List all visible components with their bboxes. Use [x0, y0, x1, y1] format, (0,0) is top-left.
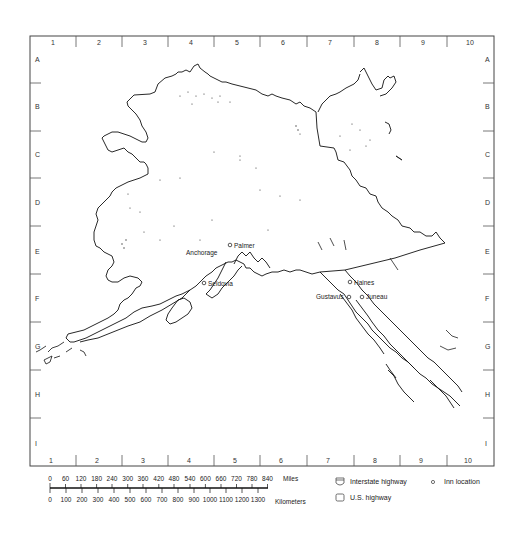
- svg-text:5: 5: [233, 457, 237, 464]
- svg-text:1: 1: [49, 457, 53, 464]
- svg-text:1200: 1200: [235, 496, 250, 503]
- scale-km-labels: 0 100 200 300 400 500 600 700 800 900 10…: [48, 496, 306, 505]
- scale-bar: 0 60 120 180 240 300 360 420 480 540 600…: [48, 475, 306, 505]
- svg-text:800: 800: [173, 496, 184, 503]
- svg-text:8: 8: [375, 39, 379, 46]
- svg-text:300: 300: [122, 475, 133, 482]
- legend: Interstate highway U.S. highway Inn loca…: [336, 478, 480, 502]
- row-labels-right: A B C D E F G H I: [485, 56, 490, 447]
- aleutian-islands: [36, 342, 86, 364]
- svg-text:300: 300: [93, 496, 104, 503]
- inn-seldovia[interactable]: [202, 281, 206, 285]
- svg-text:3: 3: [143, 39, 147, 46]
- svg-text:B: B: [485, 103, 490, 110]
- km-unit-label: Kilometers: [275, 498, 306, 505]
- svg-text:400: 400: [109, 496, 120, 503]
- inn-haines[interactable]: [348, 280, 352, 284]
- legend-us-highway-label: U.S. highway: [350, 494, 392, 502]
- svg-text:C: C: [35, 151, 40, 158]
- svg-text:5: 5: [235, 39, 239, 46]
- svg-text:2: 2: [95, 457, 99, 464]
- circle-icon: [431, 480, 434, 483]
- svg-text:480: 480: [169, 475, 180, 482]
- label-seldovia: Seldovia: [208, 280, 233, 287]
- svg-text:10: 10: [464, 457, 472, 464]
- svg-text:720: 720: [231, 475, 242, 482]
- svg-text:900: 900: [189, 496, 200, 503]
- arctic-islands: [318, 68, 402, 160]
- inn-juneau[interactable]: [360, 295, 364, 299]
- svg-text:1000: 1000: [203, 496, 218, 503]
- svg-text:8: 8: [373, 457, 377, 464]
- svg-text:2: 2: [97, 39, 101, 46]
- legend-interstate-label: Interstate highway: [350, 478, 407, 486]
- scale-miles-labels: 0 60 120 180 240 300 360 420 480 540 600…: [48, 475, 299, 482]
- svg-text:180: 180: [91, 475, 102, 482]
- interstate-shield-icon: [336, 478, 344, 485]
- svg-text:C: C: [485, 151, 490, 158]
- svg-text:6: 6: [281, 39, 285, 46]
- svg-text:120: 120: [76, 475, 87, 482]
- map-frame: [30, 36, 494, 466]
- svg-text:10: 10: [466, 39, 474, 46]
- svg-text:7: 7: [326, 457, 330, 464]
- svg-text:9: 9: [419, 457, 423, 464]
- svg-text:I: I: [35, 440, 37, 447]
- us-highway-shield-icon: [336, 494, 344, 501]
- svg-text:G: G: [485, 343, 490, 350]
- svg-text:1100: 1100: [219, 496, 233, 503]
- svg-text:A: A: [35, 56, 40, 63]
- svg-text:H: H: [35, 391, 40, 398]
- svg-text:B: B: [35, 103, 40, 110]
- svg-text:500: 500: [125, 496, 136, 503]
- svg-text:780: 780: [247, 475, 258, 482]
- alaska-coastline: [66, 64, 445, 342]
- inn-markers: [202, 243, 364, 299]
- column-labels-bottom: 1 2 3 4 5 6 7 8 9 10: [49, 457, 472, 464]
- label-palmer: Palmer: [234, 242, 255, 249]
- inn-palmer[interactable]: [228, 243, 232, 247]
- svg-text:420: 420: [153, 475, 164, 482]
- svg-text:660: 660: [216, 475, 227, 482]
- svg-text:6: 6: [279, 457, 283, 464]
- svg-text:240: 240: [107, 475, 118, 482]
- svg-text:7: 7: [328, 39, 332, 46]
- svg-text:200: 200: [77, 496, 88, 503]
- glacier-strokes: [318, 156, 458, 350]
- row-labels-left: A B C D E F G H I: [35, 56, 40, 447]
- row-ticks: [30, 83, 494, 418]
- svg-text:4: 4: [189, 39, 193, 46]
- legend-inn-label: Inn location: [444, 478, 480, 485]
- svg-text:0: 0: [48, 475, 52, 482]
- svg-text:60: 60: [62, 475, 70, 482]
- svg-text:F: F: [35, 295, 39, 302]
- svg-text:F: F: [485, 295, 489, 302]
- svg-text:0: 0: [48, 496, 52, 503]
- lakes: [121, 91, 370, 248]
- svg-text:700: 700: [157, 496, 168, 503]
- label-haines: Haines: [354, 279, 375, 286]
- svg-text:D: D: [35, 199, 40, 206]
- svg-text:D: D: [485, 199, 490, 206]
- label-anchorage: Anchorage: [186, 249, 218, 257]
- column-ticks: [76, 36, 447, 466]
- label-juneau: Juneau: [366, 293, 388, 300]
- svg-text:600: 600: [200, 475, 211, 482]
- column-labels-top: 1 2 3 4 5 6 7 8 9 10: [51, 39, 474, 46]
- svg-text:3: 3: [141, 457, 145, 464]
- svg-text:G: G: [35, 343, 40, 350]
- svg-text:1300: 1300: [251, 496, 266, 503]
- svg-text:I: I: [485, 440, 487, 447]
- miles-unit-label: Miles: [283, 475, 299, 482]
- svg-text:E: E: [485, 248, 490, 255]
- svg-text:4: 4: [187, 457, 191, 464]
- svg-text:1: 1: [51, 39, 55, 46]
- svg-text:9: 9: [421, 39, 425, 46]
- svg-text:100: 100: [61, 496, 72, 503]
- southeast-alaska: [320, 270, 462, 408]
- inn-gustavus[interactable]: [347, 295, 351, 299]
- svg-text:540: 540: [185, 475, 196, 482]
- svg-text:H: H: [485, 391, 490, 398]
- svg-text:600: 600: [141, 496, 152, 503]
- svg-text:840: 840: [262, 475, 273, 482]
